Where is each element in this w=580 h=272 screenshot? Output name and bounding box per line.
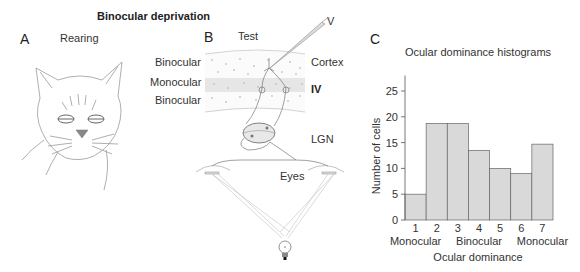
histogram-bar-1	[405, 194, 426, 220]
histogram-bar-4	[468, 150, 489, 220]
y-tick-label: 20	[386, 111, 398, 123]
histogram-bar-5	[490, 168, 511, 220]
y-tick-label: 10	[386, 162, 398, 174]
y-tick-label: 15	[386, 137, 398, 149]
histogram-bar-2	[426, 124, 447, 220]
histogram-bar-6	[511, 174, 532, 220]
y-tick-label: 0	[392, 214, 398, 226]
x-tick-label: 5	[497, 222, 503, 234]
x-group-label: Binocular	[456, 235, 502, 247]
y-tick-label: 5	[392, 188, 398, 200]
x-tick-label: 4	[476, 222, 482, 234]
x-axis-label: Ocular dominance	[433, 251, 522, 263]
histogram-bar-3	[447, 124, 468, 220]
x-group-label: Monocular	[390, 235, 442, 247]
x-tick-label: 1	[413, 222, 419, 234]
chart-title: Ocular dominance histograms	[405, 46, 552, 58]
x-tick-label: 7	[539, 222, 545, 234]
x-group-label: Monocular	[517, 235, 569, 247]
y-axis-label: Number of cells	[370, 117, 382, 194]
x-tick-label: 3	[455, 222, 461, 234]
ocular-dominance-chart: Ocular dominance histograms 1234567 0510…	[0, 0, 580, 272]
y-tick-label: 25	[386, 85, 398, 97]
x-tick-label: 2	[434, 222, 440, 234]
histogram-bar-7	[532, 144, 553, 220]
x-tick-label: 6	[518, 222, 524, 234]
